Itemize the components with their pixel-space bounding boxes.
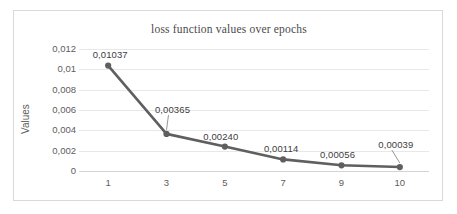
x-tick-label: 10 [380,177,420,188]
x-tick-label: 3 [147,177,187,188]
y-axis-title: Values [20,89,34,149]
y-tick-label: 0,012 [36,44,76,54]
y-tick-label: 0 [36,166,76,176]
loss-line-series [79,49,429,171]
y-axis-tick-labels: 0,0120,010,0080,0060,0040,0020 [36,49,76,175]
series-line [108,66,400,167]
y-tick-label: 0,004 [36,125,76,135]
y-tick-label: 0,002 [36,146,76,156]
x-tick-label: 1 [88,177,128,188]
x-axis-line [79,171,429,172]
chart-title: loss function values over epochs [14,23,444,35]
y-tick-label: 0,006 [36,105,76,115]
data-point-marker [397,164,403,170]
data-point-marker [280,156,286,162]
y-tick-label: 0,008 [36,85,76,95]
data-point-marker [105,62,111,68]
x-tick-label: 9 [322,177,362,188]
x-axis-tick-labels: 1357910 [79,177,429,193]
x-tick-label: 5 [205,177,245,188]
plot-area [79,49,429,171]
data-point-marker [163,131,169,137]
data-point-marker [338,162,344,168]
data-point-marker [222,144,228,150]
x-tick-label: 7 [263,177,303,188]
chart-frame: loss function values over epochs Values … [13,10,443,201]
y-tick-label: 0,01 [36,64,76,74]
